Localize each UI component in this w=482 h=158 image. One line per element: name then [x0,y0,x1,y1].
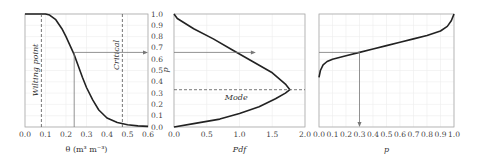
x-tick-label: 0.3 [81,130,93,139]
x-tick-label: 0.0 [313,130,325,139]
x-tick-label: 1.0 [448,130,460,139]
arrow-head [251,50,256,54]
x-tick-label: 0.2 [60,130,72,139]
arrow-head [358,122,362,127]
y-tick-label: 0.2 [151,100,163,109]
x-tick-label: 0.3 [354,130,366,139]
x-tick-label: 0.9 [435,130,447,139]
y-tick-label: 0.1 [151,111,163,120]
critical-label: Critical [112,40,121,71]
x-axis-label: Pdf [232,145,249,154]
x-tick-label: 1.0 [234,130,246,139]
x-tick-label: 0.1 [40,130,52,139]
y-tick-label: 0.0 [151,123,163,132]
arrow-head [143,50,148,54]
y-tick-label: 0.3 [151,89,163,98]
x-tick-label: 0.5 [381,130,393,139]
x-tick-label: 0.5 [201,130,213,139]
figure: 0.00.10.20.30.40.50.6Wilting pointCritic… [0,0,482,158]
y-tick-label: 0.9 [151,21,163,30]
x-tick-label: 0.5 [122,130,134,139]
mode-label: Mode [224,93,248,102]
x-tick-label: 0.6 [394,130,406,139]
y-tick-label: 0.6 [151,55,163,64]
x-tick-label: 0.0 [19,130,31,139]
wilting-point-label: Wilting point [31,43,40,96]
x-tick-label: 0.4 [367,130,379,139]
y-tick-label: 1.0 [151,10,163,19]
x-tick-label: 0.4 [101,130,113,139]
x-axis-label: p [384,145,389,154]
y-tick-label: 0.8 [151,32,163,41]
y-axis-label: p [161,67,170,72]
x-tick-label: 0.2 [340,130,352,139]
x-tick-label: 1.5 [266,130,278,139]
x-tick-label: 0.8 [421,130,433,139]
x-tick-label: 0.1 [327,130,339,139]
x-tick-label: 2.0 [299,130,311,139]
x-axis-label: θ (m³ m⁻³) [66,145,108,154]
y-tick-label: 0.7 [151,43,163,52]
y-tick-label: 0.4 [151,77,163,86]
x-tick-label: 0.0 [168,130,180,139]
x-tick-label: 0.7 [408,130,420,139]
